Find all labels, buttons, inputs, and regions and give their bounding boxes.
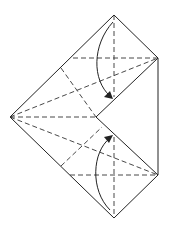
top-fold-arrow bbox=[97, 22, 113, 96]
fold-line-perp-lower bbox=[61, 127, 102, 166]
origami-diagram bbox=[0, 0, 169, 233]
notch-edge-bottom bbox=[96, 117, 158, 175]
fold-line-diagonal-lower bbox=[10, 117, 158, 175]
notch-edge-top bbox=[96, 58, 158, 117]
top-arrowhead-icon bbox=[104, 91, 113, 99]
fold-line-diagonal-upper bbox=[10, 58, 158, 117]
bottom-fold-arrow bbox=[96, 138, 110, 210]
paper-outline bbox=[10, 15, 158, 218]
fold-line-perp-upper bbox=[61, 68, 96, 117]
